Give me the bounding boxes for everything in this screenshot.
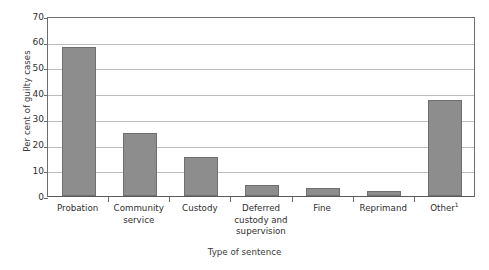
x-axis-title: Type of sentence [0, 247, 489, 257]
x-axis-tick-label: Other1 [414, 203, 475, 215]
bar [306, 188, 340, 196]
bar [245, 185, 279, 196]
x-axis-tickmark [292, 197, 293, 202]
y-axis-tick-label: 0 [18, 193, 44, 202]
y-axis-tick-label: 30 [18, 115, 44, 124]
y-axis-tick-label: 60 [18, 38, 44, 47]
bar [428, 100, 462, 196]
bars-layer [48, 18, 474, 196]
y-axis-tick-label: 20 [18, 141, 44, 150]
x-axis-tick-label: Fine [292, 203, 353, 215]
footnote-marker: 1 [455, 201, 459, 208]
y-axis-tick-label: 70 [18, 13, 44, 22]
x-axis-tickmark [230, 197, 231, 202]
x-axis-tick-label: Deferredcustody andsupervision [230, 203, 291, 238]
bar [367, 191, 401, 196]
y-axis-tick-labels: 010203040506070 [18, 0, 44, 270]
bar [184, 157, 218, 196]
y-axis-tickmark [44, 198, 48, 199]
y-axis-tick-label: 10 [18, 167, 44, 176]
x-axis-tick-label: Custody [169, 203, 230, 215]
bar [123, 133, 157, 196]
x-axis-tick-label: Probation [47, 203, 108, 215]
y-axis-tick-label: 40 [18, 90, 44, 99]
bar-chart-figure: Per cent of guilty cases 010203040506070… [0, 0, 489, 270]
x-axis-tick-labels: ProbationCommunityserviceCustodyDeferred… [47, 203, 475, 249]
x-axis-tickmark [108, 197, 109, 202]
x-axis-tickmark [353, 197, 354, 202]
y-axis-tick-label: 50 [18, 64, 44, 73]
x-axis-tickmark [414, 197, 415, 202]
bar [62, 47, 96, 196]
x-axis-tick-label: Communityservice [108, 203, 169, 226]
x-axis-tick-label: Reprimand [353, 203, 414, 215]
plot-area [47, 17, 475, 197]
x-axis-tickmark [169, 197, 170, 202]
